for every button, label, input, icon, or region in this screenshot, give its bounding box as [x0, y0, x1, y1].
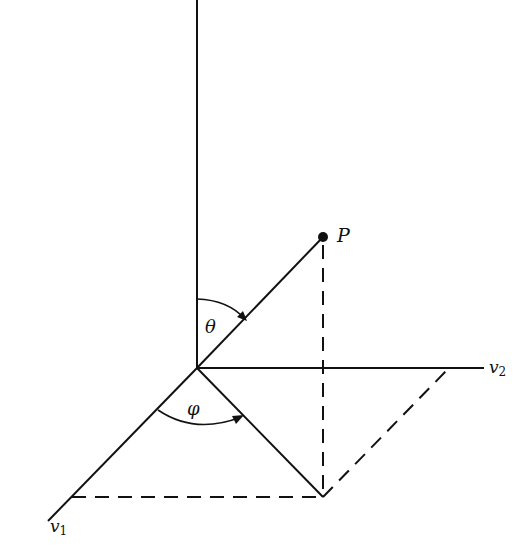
v1-axis-label: v1	[50, 518, 67, 537]
position-vector-op	[197, 237, 323, 368]
v1-axis	[48, 368, 197, 521]
point-p-label: P	[337, 226, 350, 245]
phi-arrowhead-icon	[232, 415, 244, 424]
v2-axis-label: v2	[489, 359, 506, 378]
dashed-to-v2	[323, 368, 449, 497]
spherical-coordinates-diagram	[0, 0, 520, 547]
phi-label: φ	[187, 400, 200, 418]
point-p-dot	[318, 232, 328, 242]
theta-label: θ	[205, 318, 216, 336]
projection-line	[197, 368, 323, 497]
